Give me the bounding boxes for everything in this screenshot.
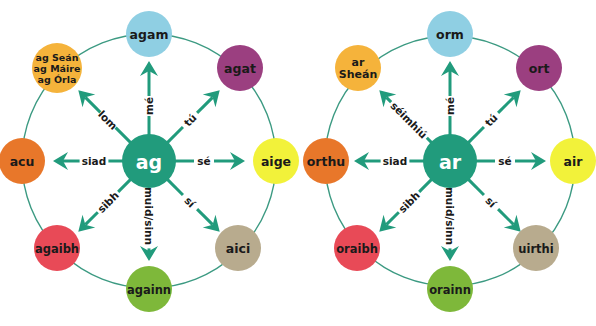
node-top-left: arSheán bbox=[335, 45, 381, 91]
arrow-label: muid/sinn bbox=[444, 187, 456, 245]
node-label: ag Seán bbox=[36, 52, 79, 63]
node-bottom: orainn bbox=[427, 266, 473, 312]
node-label: agat bbox=[224, 61, 256, 76]
center-label: ar bbox=[439, 151, 462, 173]
node-bottom-left: oraibh bbox=[334, 225, 380, 271]
node-top-right: agat bbox=[217, 45, 263, 91]
arrow-t: tú bbox=[167, 90, 219, 142]
arrow-label: mé bbox=[143, 97, 155, 115]
arrow-label: siad bbox=[383, 155, 407, 167]
node-label: orthu bbox=[307, 154, 346, 169]
node-label: Sheán bbox=[339, 68, 377, 81]
node-top-right: ort bbox=[516, 45, 562, 91]
arrowhead-icon bbox=[441, 246, 459, 261]
arrow-s: sé bbox=[476, 152, 546, 170]
arrow-siad: siad bbox=[53, 152, 123, 170]
node-label: orm bbox=[436, 27, 464, 42]
arrow-label: tú bbox=[482, 111, 499, 128]
arrow-s: sé bbox=[175, 152, 245, 170]
diagram-canvas: métúsésímuid/sinnsibhsiadlomagagamagatai… bbox=[0, 0, 596, 326]
node-right: air bbox=[550, 138, 596, 184]
arrow-simhi: séimhiú bbox=[379, 90, 431, 142]
arrow-s: sí bbox=[468, 179, 520, 231]
arrow-label: sé bbox=[197, 155, 210, 167]
arrow-sibh: sibh bbox=[379, 179, 431, 231]
arrow-label: sé bbox=[498, 155, 511, 167]
arrow-label: séimhiú bbox=[388, 99, 429, 140]
arrow-label: mé bbox=[444, 97, 456, 115]
arrow-label: muid/sinn bbox=[143, 187, 155, 245]
node-bottom-left: agaibh bbox=[34, 225, 80, 271]
arrowhead-icon bbox=[140, 246, 158, 261]
arrow-siad: siad bbox=[354, 152, 424, 170]
diagram-ag: métúsésímuid/sinnsibhsiadlomagagamagatai… bbox=[0, 11, 299, 312]
node-label: ort bbox=[529, 61, 550, 76]
node-left: acu bbox=[0, 138, 45, 184]
node-top-left: ag Seánag Máireag Órla bbox=[32, 43, 82, 93]
node-label: ag Máire bbox=[34, 63, 81, 74]
arrow-label: tú bbox=[181, 111, 198, 128]
node-bottom: againn bbox=[126, 266, 172, 312]
arrow-label: siad bbox=[82, 155, 106, 167]
arrow-sibh: sibh bbox=[78, 179, 130, 231]
arrow-m: mé bbox=[140, 61, 158, 135]
node-top: agam bbox=[126, 11, 172, 57]
arrow-m: mé bbox=[441, 61, 459, 135]
arrow-label: sí bbox=[483, 194, 499, 210]
prepositional-pronoun-diagrams: métúsésímuid/sinnsibhsiadlomagagamagatai… bbox=[0, 0, 596, 326]
node-label: aige bbox=[261, 154, 291, 169]
node-label: ar bbox=[352, 56, 365, 69]
node-label: air bbox=[564, 154, 584, 169]
arrow-label: sibh bbox=[396, 189, 422, 215]
node-label: acu bbox=[10, 154, 35, 169]
arrow-muidsinn: muid/sinn bbox=[441, 184, 459, 261]
node-label: ag Órla bbox=[38, 74, 77, 85]
node-label: aici bbox=[226, 241, 250, 256]
node-bottom-right: uirthi bbox=[513, 225, 559, 271]
arrow-lom: lom bbox=[78, 90, 130, 142]
node-top: orm bbox=[427, 11, 473, 57]
node-label: agaibh bbox=[35, 242, 79, 256]
node-label: orainn bbox=[429, 283, 471, 297]
node-label: againn bbox=[127, 283, 171, 297]
node-right: aige bbox=[253, 138, 299, 184]
arrow-muidsinn: muid/sinn bbox=[140, 184, 158, 261]
arrow-label: sí bbox=[182, 194, 198, 210]
node-left: orthu bbox=[303, 138, 349, 184]
arrow-t: tú bbox=[468, 90, 520, 142]
center-label: ag bbox=[136, 151, 162, 173]
arrow-s: sí bbox=[167, 179, 219, 231]
node-label: agam bbox=[130, 27, 169, 42]
node-label: uirthi bbox=[518, 242, 553, 256]
diagram-ar: métúsésímuid/sinnsibhsiadséimhiúarormort… bbox=[303, 11, 596, 312]
node-bottom-right: aici bbox=[215, 225, 261, 271]
node-label: oraibh bbox=[336, 242, 378, 256]
arrow-label: sibh bbox=[95, 189, 121, 215]
